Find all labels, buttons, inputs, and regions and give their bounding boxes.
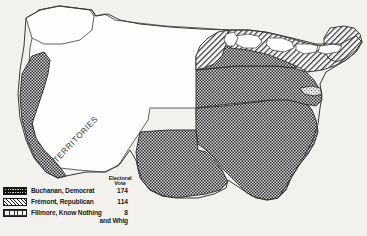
legend-label-fillmore: Fillmore, Know Nothing [31,209,102,218]
legend-swatch-buchanan [3,187,27,195]
legend-label-buchanan: Buchanan, Democrat [31,187,94,196]
legend-votes-fremont: 114 [106,198,128,207]
legend-swatch-fremont [3,198,27,206]
legend-votes-fillmore: 8 [106,209,128,218]
legend-continuation: and Whig [31,217,128,226]
map-legend: Electoral Vote Buchanan, Democrat 174 Fr… [3,186,153,219]
legend-votes-buchanan: 174 [106,187,128,196]
legend-swatch-fillmore [3,209,27,217]
legend-label-fremont: Frémont, Republican [31,198,94,207]
legend-row-buchanan: Buchanan, Democrat 174 [3,186,153,196]
legend-row-fremont: Frémont, Republican 114 [3,197,153,207]
